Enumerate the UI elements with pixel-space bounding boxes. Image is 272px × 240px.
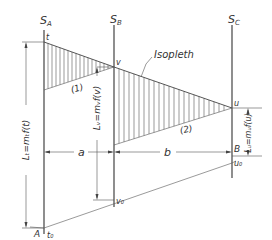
dim-b-arrow-left <box>114 151 120 154</box>
region-label-2: (2) <box>179 123 194 135</box>
scale-label-sb: SB <box>110 13 122 27</box>
hatch-region-2 <box>119 69 224 144</box>
point-label-b: B <box>234 144 240 154</box>
lu-formula-label: Lᵤ=mᵤf(u) <box>244 113 253 153</box>
lt-arrow-down <box>25 222 28 228</box>
region-label-1: (1) <box>70 82 85 95</box>
point-label-t0: t₀ <box>47 231 54 240</box>
point-label-v: v <box>116 58 121 67</box>
point-label-t: t <box>46 33 50 42</box>
lv-formula-label: Lᵥ=mᵥf(v) <box>92 86 102 130</box>
lu-arrow-up <box>247 108 250 114</box>
scale-label-sa: SA <box>40 14 52 28</box>
point-label-u0: u₀ <box>234 159 243 168</box>
baseline <box>44 163 232 228</box>
dim-a-label: a <box>78 146 85 159</box>
dim-a-arrow-right <box>108 151 114 154</box>
hatch-region-1 <box>48 43 108 88</box>
region-2-lower-edge <box>114 108 232 145</box>
point-label-u: u <box>234 99 239 108</box>
dim-b-arrow-right <box>226 151 232 154</box>
isopleth-leader <box>141 57 152 77</box>
dim-b-label: b <box>164 146 171 159</box>
dim-a-arrow-left <box>44 151 50 154</box>
nomogram-diagram: SA SB SC t v u t₀ v₀ u₀ A B (1) (2) Isop… <box>0 0 272 240</box>
isopleth-label: Isopleth <box>154 49 194 60</box>
point-label-a: A <box>33 229 40 239</box>
lt-arrow-up <box>25 42 28 48</box>
point-label-v0: v₀ <box>116 197 125 206</box>
lt-formula-label: Lₜ=mₜf(t) <box>21 120 31 160</box>
scale-label-sc: SC <box>228 13 240 27</box>
lv-arrow-down <box>96 194 99 200</box>
